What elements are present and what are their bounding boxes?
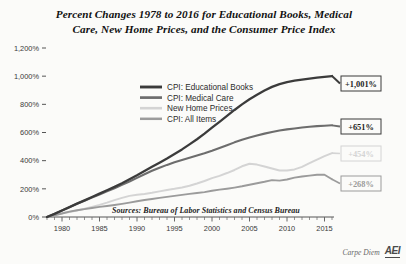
x-axis-tick-label: 1990	[129, 224, 145, 233]
x-axis-tick-label: 1980	[54, 224, 70, 233]
x-axis-tick-label: 2005	[241, 224, 257, 233]
y-axis-tick-label: 400%	[20, 156, 39, 165]
y-axis-tick-label: 600%	[20, 128, 39, 137]
callout-label-1: +651%	[348, 123, 374, 132]
aei-logo-icon: AEI	[385, 246, 400, 258]
callout-leader-1	[332, 125, 340, 126]
callout-label-2: +454%	[348, 150, 374, 159]
x-axis-tick-label: 2015	[316, 224, 332, 233]
legend-label-0: CPI: Educational Books	[167, 83, 253, 92]
legend-label-2: New Home Prices	[167, 104, 233, 113]
brand-mark: Carpe Diem AEI	[342, 246, 400, 258]
legend-label-1: CPI: Medical Care	[167, 94, 234, 103]
callout-leader-0	[332, 76, 340, 83]
x-axis-tick-label: 2010	[279, 224, 295, 233]
source-note: Sources: Bureau of Labor Statistics and …	[112, 206, 300, 215]
y-axis-tick-label: 200%	[20, 185, 39, 194]
y-axis-tick-label: 1,000%	[14, 72, 39, 81]
legend-label-3: CPI: All Items	[167, 115, 216, 124]
line-chart: 0%200%400%600%800%1,000%1,200%1980198519…	[0, 0, 406, 264]
x-axis-tick-label: 1995	[166, 224, 182, 233]
brand-name: Carpe Diem	[342, 248, 379, 257]
x-axis-tick-label: 2000	[204, 224, 220, 233]
y-axis-tick-label: 800%	[20, 100, 39, 109]
callout-leader-3	[332, 179, 340, 183]
callout-label-3: +268%	[348, 180, 374, 189]
y-axis-tick-label: 1,200%	[14, 44, 39, 53]
callout-label-0: +1,001%	[345, 80, 377, 89]
y-axis-tick-label: 0%	[28, 213, 39, 222]
x-axis-tick-label: 1985	[91, 224, 107, 233]
chart-page: Percent Changes 1978 to 2016 for Educati…	[0, 0, 406, 264]
